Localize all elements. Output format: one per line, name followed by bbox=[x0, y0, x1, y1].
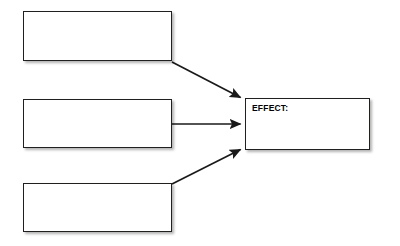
cause-box-3[interactable] bbox=[23, 183, 172, 232]
cause-box-1[interactable] bbox=[23, 11, 172, 61]
effect-box-label: EFFECT: bbox=[252, 103, 288, 114]
diagram-canvas: EFFECT: bbox=[0, 0, 400, 246]
arrow-cause-1-to-effect bbox=[172, 62, 241, 98]
arrow-cause-3-to-effect bbox=[172, 150, 241, 185]
effect-box[interactable]: EFFECT: bbox=[245, 98, 370, 150]
cause-box-2[interactable] bbox=[23, 99, 172, 148]
